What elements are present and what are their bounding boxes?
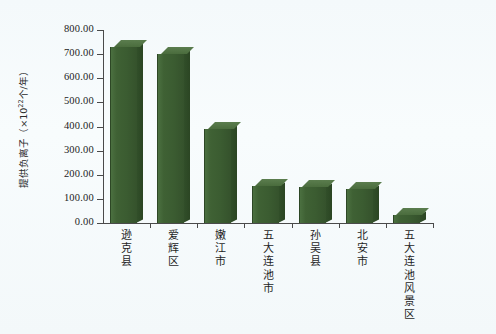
x-axis-category-label-char: 爱: [166, 229, 182, 242]
y-axis-tick: [97, 30, 103, 31]
y-axis-tick: [97, 175, 103, 176]
x-axis-category-label-char: 江: [213, 242, 229, 255]
x-axis-line: [103, 223, 433, 224]
x-axis-category-label-char: 景: [401, 295, 417, 308]
y-axis-tick-label: 0.00: [28, 216, 94, 227]
y-axis-tick-label: 700.00: [28, 47, 94, 58]
x-axis-category-label-char: 大: [260, 242, 276, 255]
y-axis-tick-label: 300.00: [28, 144, 94, 155]
x-axis-tick: [339, 223, 340, 228]
x-axis-category-label: 爱辉区: [166, 229, 182, 269]
y-axis-tick-label: 400.00: [28, 120, 94, 131]
bar-front-face: [157, 54, 184, 223]
bar: [157, 47, 190, 223]
x-axis-category-label: 嫩江市: [213, 229, 229, 269]
bar-front-face: [346, 189, 373, 223]
y-axis-tick-label: 500.00: [28, 95, 94, 106]
x-axis-category-label-char: 连: [401, 255, 417, 268]
x-axis-tick: [197, 223, 198, 228]
x-axis-category-label-char: 县: [307, 255, 323, 268]
x-axis-tick: [150, 223, 151, 228]
bar: [110, 40, 143, 223]
y-axis-tick: [97, 54, 103, 55]
x-axis-category-label-char: 吴: [307, 242, 323, 255]
x-axis-tick: [433, 223, 434, 228]
bar-front-face: [252, 186, 279, 223]
x-axis-category-label-char: 孙: [307, 229, 323, 242]
x-axis-category-label-char: 五: [260, 229, 276, 242]
bars-container: [103, 30, 433, 223]
x-axis-category-label: 五大连池市: [260, 229, 276, 295]
x-axis-category-label-char: 安: [354, 242, 370, 255]
y-axis-tick: [97, 78, 103, 79]
x-axis-category-label-char: 池: [260, 269, 276, 282]
y-axis-tick: [97, 223, 103, 224]
bar-side-face: [230, 125, 237, 223]
x-axis-category-label: 逊克县: [119, 229, 135, 269]
x-axis-category-labels: 逊克县爱辉区嫩江市五大连池市孙吴县北安市五大连池风景区: [103, 229, 443, 334]
bar-front-face: [299, 187, 326, 223]
bar: [393, 208, 426, 223]
x-axis-category-label-char: 五: [401, 229, 417, 242]
bar-side-face: [136, 43, 143, 223]
bar: [252, 179, 285, 223]
x-axis-category-label-char: 北: [354, 229, 370, 242]
x-axis-category-label-char: 逊: [119, 229, 135, 242]
x-axis-category-label-char: 嫩: [213, 229, 229, 242]
x-axis-category-label-char: 克: [119, 242, 135, 255]
y-axis-tick: [97, 151, 103, 152]
bar: [299, 180, 332, 223]
x-axis-category-label-char: 辉: [166, 242, 182, 255]
bar-side-face: [325, 183, 332, 223]
x-axis-category-label-char: 县: [119, 255, 135, 268]
y-axis-tick-label: 100.00: [28, 192, 94, 203]
x-axis-category-label-char: 市: [354, 255, 370, 268]
x-axis-category-label-char: 区: [401, 308, 417, 321]
bar-side-face: [183, 51, 190, 223]
y-axis-tick: [97, 127, 103, 128]
y-axis-tick-label: 800.00: [28, 23, 94, 34]
x-axis-category-label-char: 区: [166, 255, 182, 268]
x-axis-category-label-char: 大: [401, 242, 417, 255]
x-axis-category-label-char: 池: [401, 269, 417, 282]
bar-front-face: [393, 215, 420, 223]
bar-chart-figure: 提供负离子（×1022个/年） 0.00100.00200.00300.0040…: [0, 0, 496, 334]
x-axis-category-label: 孙吴县: [307, 229, 323, 269]
y-axis-tick: [97, 199, 103, 200]
y-axis-tick: [97, 102, 103, 103]
x-axis-category-label-char: 连: [260, 255, 276, 268]
bar-side-face: [372, 186, 379, 223]
y-axis-title-exponent: 22: [17, 99, 25, 107]
y-axis-tick-label: 200.00: [28, 168, 94, 179]
bar: [204, 122, 237, 223]
y-axis-tick-label: 600.00: [28, 71, 94, 82]
x-axis-category-label-char: 市: [260, 282, 276, 295]
bar-front-face: [110, 47, 137, 223]
x-axis-category-label-char: 风: [401, 282, 417, 295]
x-axis-tick: [386, 223, 387, 228]
bar-front-face: [204, 129, 231, 223]
x-axis-tick: [244, 223, 245, 228]
y-axis-tick-labels: 0.00100.00200.00300.00400.00500.00600.00…: [28, 0, 94, 334]
x-axis-tick: [292, 223, 293, 228]
x-axis-category-label: 五大连池风景区: [401, 229, 417, 321]
x-axis-category-label: 北安市: [354, 229, 370, 269]
bar: [346, 182, 379, 223]
x-axis-category-label-char: 市: [213, 255, 229, 268]
bar-side-face: [278, 182, 285, 223]
